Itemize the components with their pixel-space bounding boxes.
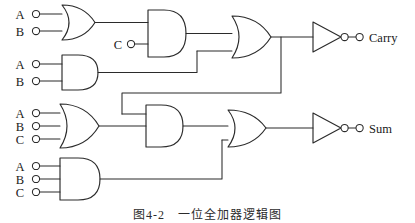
input-terminal-b-row3: [32, 122, 39, 129]
input-label-c-carry: C: [114, 38, 122, 52]
input-terminal-a-row3: [32, 109, 39, 116]
input-label-a-row3: A: [15, 107, 24, 121]
output-label-sum: Sum: [369, 122, 392, 136]
input-terminal-a-row2: [32, 60, 39, 67]
output-terminal-sum: [356, 124, 363, 131]
not-bubble-sum: [341, 124, 348, 131]
output-label-carry: Carry: [369, 31, 398, 45]
input-label-b-row2: B: [16, 75, 24, 89]
not-gate-sum: [313, 113, 341, 143]
wire-carry-feedback: [122, 37, 281, 114]
input-terminal-c-row4: [32, 188, 39, 195]
input-terminal-c-carry: [127, 40, 134, 47]
circuit-diagram: A B C A B A B C A B C Carry Sum: [0, 0, 415, 223]
or-gate-sum: [228, 110, 266, 147]
input-terminal-a-row4: [32, 162, 39, 169]
figure-caption: 图4-2 一位全加器逻辑图: [0, 205, 415, 223]
wire-and-abc-to-or-sum: [100, 140, 222, 179]
input-terminal-b-row2: [32, 77, 39, 84]
output-terminal-carry: [356, 33, 363, 40]
input-terminal-b-row4: [32, 175, 39, 182]
and-gate-c-top: [148, 10, 186, 57]
input-label-c-row3: C: [16, 133, 24, 147]
or-gate-abc: [60, 104, 99, 148]
or-gate-carry: [232, 16, 271, 58]
input-terminal-b-row1: [32, 27, 39, 34]
and-gate-ab: [62, 55, 98, 90]
logic-circuit-figure: A B C A B A B C A B C Carry Sum 图4-2 一位全…: [0, 0, 415, 223]
and-gate-abc: [60, 158, 100, 200]
input-label-b-row4: B: [16, 173, 24, 187]
input-label-a-row4: A: [15, 160, 24, 174]
input-terminal-c-row3: [32, 135, 39, 142]
not-gate-carry: [313, 22, 341, 52]
input-label-a-row1: A: [15, 8, 24, 22]
input-terminal-a-row1: [32, 10, 39, 17]
input-label-b-row3: B: [16, 120, 24, 134]
input-label-c-row4: C: [16, 186, 24, 200]
input-label-a-row2: A: [15, 58, 24, 72]
or-gate-ab-top: [62, 5, 95, 40]
not-bubble-carry: [341, 33, 348, 40]
and-gate-mid: [146, 105, 183, 147]
input-label-b-row1: B: [16, 25, 24, 39]
